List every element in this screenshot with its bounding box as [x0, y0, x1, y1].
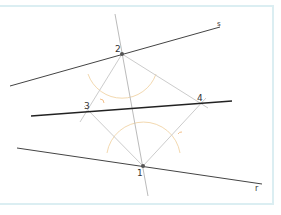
segment-1-3 — [84, 106, 143, 166]
arc-mark-left — [100, 99, 104, 103]
perpendicular-line — [115, 14, 148, 196]
label-point-1: 1 — [137, 168, 143, 178]
label-point-4: 4 — [197, 93, 203, 103]
segment-2-4 — [122, 54, 208, 108]
arc-at-point-2 — [88, 74, 156, 98]
label-line-s: s — [217, 20, 221, 28]
line-s — [10, 27, 220, 86]
geometry-diagram: 2 1 3 4 s r — [0, 0, 281, 215]
label-line-r: r — [255, 184, 259, 193]
segment-1-4 — [143, 98, 206, 166]
arc-mark-right — [178, 132, 182, 134]
label-point-3: 3 — [84, 101, 90, 111]
label-point-2: 2 — [115, 44, 121, 54]
line-r — [17, 148, 262, 184]
